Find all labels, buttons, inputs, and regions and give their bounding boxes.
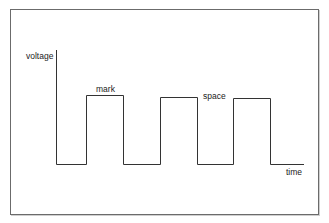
y-axis-label: voltage <box>26 52 53 61</box>
pulse-waveform <box>57 96 305 165</box>
x-axis-label: time <box>286 168 302 177</box>
signal-diagram <box>0 0 329 223</box>
mark-label: mark <box>96 85 115 94</box>
space-label: space <box>203 92 226 101</box>
